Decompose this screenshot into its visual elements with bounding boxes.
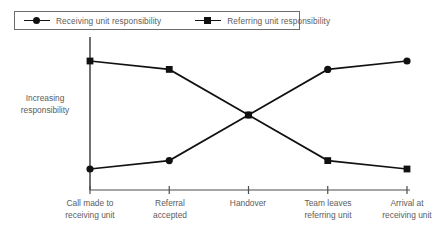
data-point-square-marker — [166, 66, 173, 73]
data-point-circle-marker — [324, 66, 331, 73]
x-tick-label-line-2: accepted — [122, 210, 218, 222]
data-point-square-marker — [245, 112, 252, 119]
data-point-circle-marker — [403, 57, 410, 64]
x-tick-label-line-1: Arrival at — [359, 198, 443, 210]
data-point-square-marker — [324, 157, 331, 164]
data-series-group — [86, 57, 410, 172]
data-point-square-marker — [404, 166, 411, 173]
x-tick-label-arrival-at-receiving-unit: Arrival at receiving unit — [359, 198, 443, 221]
data-point-circle-marker — [166, 157, 173, 164]
chart-container: Receiving unit responsibility Referring … — [0, 0, 443, 242]
series-referring-unit — [87, 58, 411, 173]
x-tick-label-line-2: receiving unit — [359, 210, 443, 222]
data-point-square-marker — [87, 58, 94, 65]
data-point-circle-marker — [86, 165, 93, 172]
